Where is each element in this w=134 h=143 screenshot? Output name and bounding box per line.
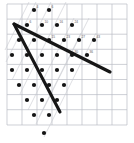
dot-label-4: 10	[45, 20, 49, 24]
lattice-dot-15	[40, 53, 44, 57]
dot-label-2: 6	[52, 5, 54, 9]
lattice-dot-9	[47, 38, 51, 42]
dot-label-10: 23	[67, 35, 71, 39]
lattice-dot-13	[10, 53, 14, 57]
dot-label-3: 6	[30, 20, 32, 24]
lattice-dot-8	[32, 38, 36, 42]
ray-upper	[14, 24, 110, 72]
lattice-dot-10	[62, 38, 66, 42]
figure-canvas: 466101624152327433036	[0, 0, 134, 143]
lattice-dot-1	[32, 8, 36, 12]
lattice-dot-20	[25, 68, 29, 72]
dot-label-1: 4	[37, 5, 39, 9]
lattice-dot-27	[62, 83, 66, 87]
lattice-dot-26	[47, 83, 51, 87]
lattice-dot-18	[85, 53, 89, 57]
lattice-dot-16	[55, 53, 59, 57]
lattice-dot-31	[32, 113, 36, 117]
lattice-dot-21	[40, 68, 44, 72]
lattice-dot-4	[40, 23, 44, 27]
dot-label-5: 16	[60, 20, 64, 24]
dot-label-6: 24	[75, 20, 79, 24]
lattice-dot-19	[10, 68, 14, 72]
lattice-dot-2	[47, 8, 51, 12]
lattice-dot-33	[42, 131, 46, 135]
lattice-dot-3	[25, 23, 29, 27]
lattice-dot-25	[32, 83, 36, 87]
point-labels: 466101624152327433036	[30, 5, 101, 54]
lattice-dot-12	[92, 38, 96, 42]
background-grid	[7, 4, 127, 125]
lattice-dot-11	[77, 38, 81, 42]
lattice-dot-6	[70, 23, 74, 27]
dot-label-17: 30	[75, 50, 79, 54]
lattice-dot-22	[55, 68, 59, 72]
dot-label-18: 36	[90, 50, 94, 54]
dot-label-11: 27	[82, 35, 86, 39]
lattice-dot-29	[40, 98, 44, 102]
dot-label-12: 43	[97, 35, 101, 39]
lattice-dot-24	[17, 83, 21, 87]
lattice-dot-30	[55, 98, 59, 102]
lattice-dot-17	[70, 53, 74, 57]
lattice-dot-7	[17, 38, 21, 42]
lattice-dot-14	[25, 53, 29, 57]
lattice-figure: 466101624152327433036	[0, 0, 134, 143]
lattice-dot-5	[55, 23, 59, 27]
lattice-dot-23	[70, 68, 74, 72]
dot-label-9: 15	[52, 35, 56, 39]
lattice-dot-32	[47, 113, 51, 117]
lattice-dot-28	[25, 98, 29, 102]
